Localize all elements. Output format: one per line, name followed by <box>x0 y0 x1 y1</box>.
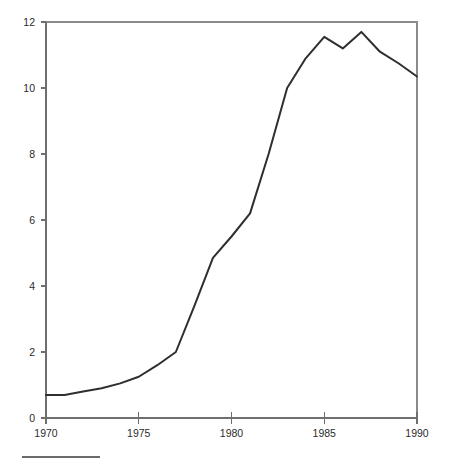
y-tick-label: 8 <box>29 148 35 160</box>
y-tick-label: 10 <box>23 82 35 94</box>
plot-frame <box>46 22 417 418</box>
y-tick-label: 6 <box>29 214 35 226</box>
y-tick-label: 4 <box>29 280 35 292</box>
x-tick-label: 1985 <box>313 427 337 439</box>
y-tick-label: 2 <box>29 346 35 358</box>
y-tick-label: 12 <box>23 16 35 28</box>
x-axis-ticks: 19701975198019851990 <box>34 412 429 439</box>
x-tick-label: 1970 <box>34 427 58 439</box>
chart-container: 024681012 19701975198019851990 <box>0 0 449 466</box>
x-tick-label: 1980 <box>220 427 244 439</box>
data-series-line <box>46 32 417 395</box>
line-chart: 024681012 19701975198019851990 <box>0 0 449 466</box>
x-tick-label: 1990 <box>405 427 429 439</box>
y-tick-label: 0 <box>29 412 35 424</box>
y-axis-ticks: 024681012 <box>23 16 46 424</box>
x-tick-label: 1975 <box>127 427 151 439</box>
